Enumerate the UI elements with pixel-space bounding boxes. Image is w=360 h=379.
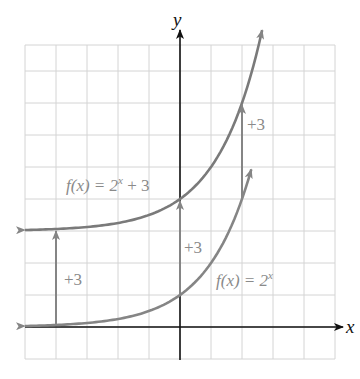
exponential-shift-chart: x y +3 +3 +3 f(x) = 2x + 3 f(x) = 2x: [0, 0, 360, 379]
upper-curve-label: f(x) = 2x + 3: [66, 174, 150, 195]
lower-curve-label: f(x) = 2x: [216, 269, 273, 290]
shift-label-right: +3: [247, 115, 265, 134]
shift-label-middle: +3: [184, 238, 202, 257]
y-axis-label: y: [171, 9, 182, 30]
x-axis-label: x: [345, 316, 355, 337]
curve-2-to-x-plus-3: [25, 30, 262, 230]
shift-label-left: +3: [64, 270, 82, 289]
